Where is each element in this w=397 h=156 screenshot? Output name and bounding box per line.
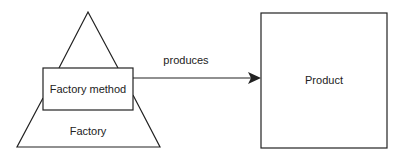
factory-pyramid-top [59, 12, 118, 68]
produces-label: produces [163, 54, 209, 66]
factory-method-label: Factory method [50, 83, 126, 95]
factory-method-diagram: Factory method Factory produces Product [0, 0, 397, 156]
product-label: Product [305, 74, 343, 86]
factory-label: Factory [70, 125, 107, 137]
